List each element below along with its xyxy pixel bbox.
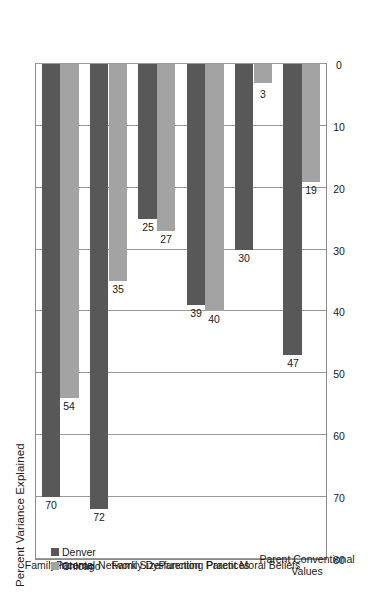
legend-swatch-icon (51, 562, 59, 570)
rotated-figure-wrapper: Percent Variance Explained 7054723525273… (0, 0, 378, 615)
bar-chicago-5[interactable] (302, 64, 320, 182)
bar-denver-0[interactable] (42, 64, 60, 497)
bar-row (283, 64, 301, 559)
bar-row (302, 64, 320, 559)
bar-row (90, 64, 108, 559)
bar-row (235, 64, 253, 559)
bar-chicago-4[interactable] (254, 64, 272, 83)
bar-row (157, 64, 175, 559)
legend-label: Chicago (62, 560, 101, 572)
bar-row (254, 64, 272, 559)
bar-value-label: 27 (160, 233, 172, 245)
bar-denver-1[interactable] (90, 64, 108, 510)
bar-value-label: 19 (305, 184, 317, 196)
legend-swatch-icon (51, 548, 59, 556)
bar-denver-2[interactable] (138, 64, 156, 219)
bar-row (60, 64, 78, 559)
tick-label-70: 70 (331, 492, 347, 504)
bar-denver-3[interactable] (187, 64, 205, 305)
bar-value-label: 35 (112, 283, 124, 295)
bar-value-label: 25 (142, 221, 154, 233)
bar-chicago-0[interactable] (60, 64, 78, 398)
bar-row (42, 64, 60, 559)
category-label-5: Parent Conventional Values (252, 553, 362, 577)
bar-row (109, 64, 127, 559)
bar-value-label: 30 (238, 252, 250, 264)
bar-value-label: 70 (45, 499, 57, 511)
tick-label-20: 20 (331, 183, 347, 195)
bar-chicago-2[interactable] (157, 64, 175, 231)
bar-value-label: 47 (287, 357, 299, 369)
plot-area: 70547235252739403034719 (35, 63, 327, 560)
bar-value-label: 3 (260, 88, 266, 100)
legend-item-denver[interactable]: Denver (51, 546, 101, 558)
bar-denver-5[interactable] (283, 64, 301, 355)
legend-item-chicago[interactable]: Chicago (51, 560, 101, 572)
bar-chicago-1[interactable] (109, 64, 127, 281)
tick-label-60: 60 (331, 430, 347, 442)
bar-value-label: 54 (64, 400, 76, 412)
chart-legend: DenverChicago (51, 546, 101, 572)
bar-value-label: 39 (190, 307, 202, 319)
tick-label-40: 40 (331, 307, 347, 319)
legend-label: Denver (62, 546, 96, 558)
bar-denver-4[interactable] (235, 64, 253, 250)
tick-label-30: 30 (331, 245, 347, 257)
bar-value-label: 40 (209, 314, 221, 326)
tick-label-50: 50 (331, 368, 347, 380)
bar-row (138, 64, 156, 559)
bar-chicago-3[interactable] (205, 64, 223, 312)
tick-label-10: 10 (331, 121, 347, 133)
bar-chart-figure: Percent Variance Explained 7054723525273… (0, 0, 378, 615)
bar-value-label: 72 (93, 512, 105, 524)
bar-row (205, 64, 223, 559)
tick-label-0: 0 (331, 59, 347, 71)
